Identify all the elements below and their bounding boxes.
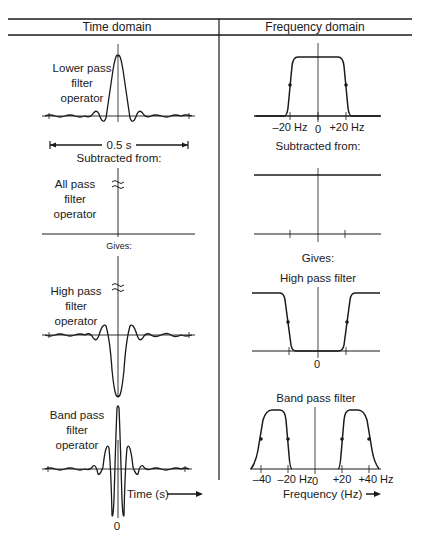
lowpass-response-plot bbox=[254, 43, 381, 122]
time-axis-label: Time (s) bbox=[127, 488, 169, 500]
bandpass-tick-neg40: –40 bbox=[253, 473, 271, 485]
highpass-operator-plot bbox=[42, 256, 195, 398]
allpass-label-line2: filter bbox=[64, 193, 86, 205]
lowpass-label-line2: filter bbox=[71, 77, 93, 89]
time-subtracted-from: Subtracted from: bbox=[76, 152, 161, 164]
bandpass-title: Band pass filter bbox=[276, 392, 355, 404]
header-frequency-domain: Frequency domain bbox=[265, 20, 364, 34]
lowpass-label-line3: operator bbox=[61, 92, 104, 104]
scale-bar-label: 0.5 s bbox=[107, 139, 132, 151]
bandpass-label-line2: filter bbox=[66, 424, 88, 436]
highpass-title: High pass filter bbox=[280, 272, 356, 284]
lowpass-tick-neg20: –20 Hz bbox=[273, 121, 308, 133]
bandpass-operator-plot bbox=[42, 406, 192, 518]
frequency-axis-arrow-icon bbox=[366, 491, 381, 497]
header-time-domain: Time domain bbox=[83, 20, 152, 34]
freq-subtracted-from: Subtracted from: bbox=[275, 140, 360, 152]
lowpass-tick-zero: 0 bbox=[315, 123, 321, 135]
freq-gives: Gives: bbox=[302, 252, 335, 264]
allpass-label-line3: operator bbox=[54, 208, 97, 220]
filter-diagram: Time domain Frequency domain Lower pass … bbox=[0, 0, 425, 545]
bandpass-tick-neg20: –20 Hz bbox=[278, 473, 313, 485]
bandpass-tick-zero: 0 bbox=[312, 475, 318, 487]
time-gives: Gives: bbox=[106, 241, 132, 251]
allpass-label-line1: All pass bbox=[55, 178, 96, 190]
highpass-label-line2: filter bbox=[65, 300, 87, 312]
bandpass-tick-pos40: +40 Hz bbox=[358, 473, 393, 485]
time-axis-arrow-icon bbox=[167, 491, 203, 497]
highpass-label-line3: operator bbox=[55, 315, 98, 327]
frequency-axis-label: Frequency (Hz) bbox=[283, 488, 362, 500]
bandpass-response-plot bbox=[250, 407, 381, 474]
bandpass-label-line1: Band pass bbox=[50, 409, 105, 421]
highpass-tick-zero: 0 bbox=[314, 358, 320, 370]
lowpass-operator-plot bbox=[42, 44, 195, 122]
lowpass-tick-pos20: +20 Hz bbox=[329, 121, 364, 133]
time-zero-label: 0 bbox=[114, 520, 120, 532]
allpass-response-plot bbox=[254, 168, 381, 242]
highpass-response-plot bbox=[252, 287, 380, 358]
bandpass-label-line3: operator bbox=[56, 439, 99, 451]
lowpass-label-line1: Lower pass bbox=[53, 62, 112, 74]
highpass-label-line1: High pass bbox=[50, 285, 101, 297]
bandpass-tick-pos20: +20 bbox=[333, 473, 352, 485]
